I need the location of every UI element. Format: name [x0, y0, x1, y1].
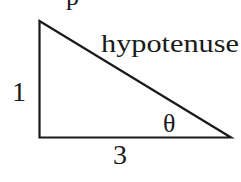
- vertical-side-label: 1: [12, 76, 26, 107]
- triangle-diagram: p hypotenuse 1 θ 3: [0, 0, 241, 182]
- angle-theta-label: θ: [163, 109, 175, 138]
- horizontal-side-label: 3: [113, 139, 127, 170]
- hypotenuse-label: hypotenuse: [101, 30, 239, 57]
- triangle-svg: p hypotenuse 1 θ 3: [0, 0, 241, 182]
- top-cropped-glyph: p: [66, 0, 79, 11]
